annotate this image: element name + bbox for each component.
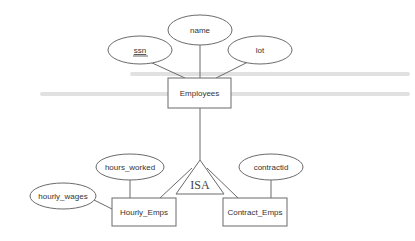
attribute-ssn-label: ssn	[134, 46, 146, 55]
entity-employees-label: Employees	[180, 89, 220, 98]
attribute-name-label: name	[190, 26, 211, 35]
attribute-hourly-wages[interactable]: hourly_wages	[30, 183, 96, 209]
attribute-name[interactable]: name	[168, 15, 232, 45]
er-diagram: name ssn lot Employees ISA hours_worked …	[0, 0, 415, 241]
attribute-hours-worked[interactable]: hours_worked	[96, 154, 164, 180]
attribute-hourly-wages-label: hourly_wages	[38, 192, 87, 201]
attribute-lot-label: lot	[256, 46, 265, 55]
isa-label: ISA	[190, 178, 210, 192]
attribute-ssn[interactable]: ssn	[108, 36, 172, 64]
attribute-contractid-label: contractid	[254, 163, 289, 172]
attribute-hours-worked-label: hours_worked	[105, 163, 155, 172]
edge-hourlywages-hourly	[94, 200, 112, 209]
entity-contract-emps[interactable]: Contract_Emps	[223, 198, 287, 226]
attribute-contractid[interactable]: contractid	[239, 154, 303, 180]
entity-hourly-emps-label: Hourly_Emps	[120, 208, 168, 217]
entity-hourly-emps[interactable]: Hourly_Emps	[112, 198, 176, 226]
attribute-lot[interactable]: lot	[228, 36, 292, 64]
entity-employees[interactable]: Employees	[168, 78, 231, 108]
entity-contract-emps-label: Contract_Emps	[227, 208, 282, 217]
